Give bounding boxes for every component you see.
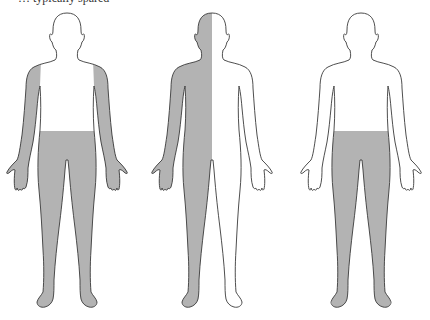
body-figure-1 bbox=[0, 0, 137, 320]
body-figure-3 bbox=[291, 0, 430, 320]
body-figure-2 bbox=[142, 0, 282, 320]
